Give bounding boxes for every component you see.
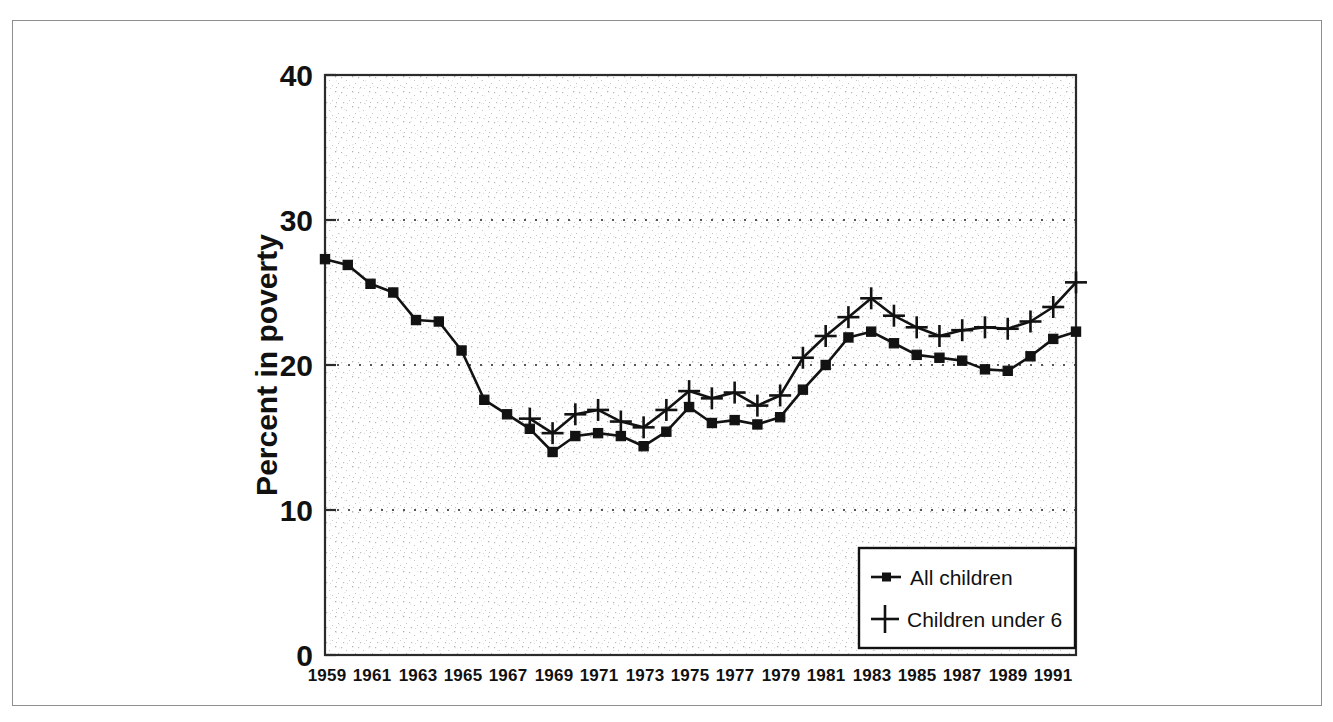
x-tick-label-1985: 1985 (898, 666, 937, 685)
data-point-marker (707, 418, 716, 427)
data-point-marker (912, 350, 921, 359)
x-tick-label-1969: 1969 (535, 666, 574, 685)
y-tick-label-20: 20 (280, 349, 313, 382)
data-point-marker (593, 429, 602, 438)
legend-label-children-under-6: Children under 6 (907, 608, 1062, 631)
data-point-marker (980, 365, 989, 374)
data-point-marker (457, 346, 466, 355)
x-tick-label-1971: 1971 (580, 666, 619, 685)
x-tick-label-1979: 1979 (762, 666, 801, 685)
data-point-marker (571, 431, 580, 440)
y-tick-label-30: 30 (280, 204, 313, 237)
x-tick-label-1977: 1977 (716, 666, 755, 685)
data-point-marker (548, 447, 557, 456)
data-point-marker (343, 260, 352, 269)
data-point-marker (776, 413, 785, 422)
data-point-marker (958, 356, 967, 365)
x-tick-label-1967: 1967 (489, 666, 528, 685)
data-point-marker (889, 339, 898, 348)
data-point-marker (1026, 352, 1035, 361)
x-tick-label-1975: 1975 (671, 666, 710, 685)
x-tick-label-1987: 1987 (943, 666, 982, 685)
data-point-marker (389, 288, 398, 297)
data-point-marker (685, 402, 694, 411)
poverty-line-chart: 40 30 20 10 0 Percent in poverty 1959 19… (0, 0, 1333, 722)
x-tick-label-1983: 1983 (853, 666, 892, 685)
y-tick-label-10: 10 (280, 494, 313, 527)
x-tick-label-1973: 1973 (626, 666, 665, 685)
data-point-marker (753, 420, 762, 429)
data-point-marker (1049, 334, 1058, 343)
data-point-marker (502, 410, 511, 419)
data-point-marker (730, 416, 739, 425)
y-axis-tick-labels: 40 30 20 10 0 (280, 59, 313, 672)
data-point-marker (411, 315, 420, 324)
legend-box (859, 548, 1075, 648)
data-point-marker (616, 431, 625, 440)
data-point-marker (821, 360, 830, 369)
y-axis-title: Percent in poverty (250, 234, 283, 496)
x-tick-label-1981: 1981 (807, 666, 846, 685)
data-point-marker (867, 327, 876, 336)
y-tick-label-40: 40 (280, 59, 313, 92)
data-point-marker (662, 427, 671, 436)
x-tick-label-1959: 1959 (308, 666, 347, 685)
chart-canvas: 40 30 20 10 0 Percent in poverty 1959 19… (0, 0, 1333, 722)
x-tick-label-1963: 1963 (399, 666, 438, 685)
x-tick-label-1991: 1991 (1034, 666, 1073, 685)
x-tick-label-1961: 1961 (353, 666, 392, 685)
data-point-marker (434, 317, 443, 326)
figure-container: 40 30 20 10 0 Percent in poverty 1959 19… (0, 0, 1333, 722)
data-point-marker (1003, 366, 1012, 375)
data-point-marker (320, 255, 329, 264)
x-axis-tick-labels: 1959 1961 1963 1965 1967 1969 1971 1973 … (308, 666, 1073, 685)
data-point-marker (935, 353, 944, 362)
data-point-marker (366, 279, 375, 288)
legend: All children Children under 6 (859, 548, 1075, 648)
x-tick-label-1965: 1965 (444, 666, 483, 685)
legend-label-all-children: All children (910, 566, 1013, 589)
data-point-marker (639, 442, 648, 451)
x-tick-label-1989: 1989 (989, 666, 1028, 685)
data-point-marker (844, 333, 853, 342)
data-point-marker (1071, 327, 1080, 336)
data-point-marker (798, 385, 807, 394)
data-point-marker (480, 395, 489, 404)
